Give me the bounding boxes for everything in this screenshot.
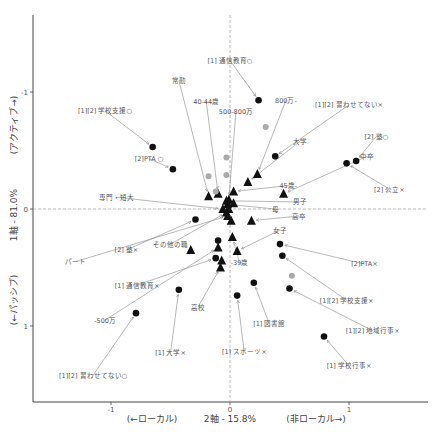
x-tick-label: -1	[108, 406, 115, 414]
y-axis-label-top: (アクティブ→)	[8, 96, 19, 155]
leader-line	[279, 105, 349, 154]
point-label: 高校	[191, 303, 205, 312]
leader-line	[105, 111, 149, 144]
point-label: -500万	[94, 317, 116, 325]
data-point-triangle	[229, 186, 238, 195]
data-point-triangle	[253, 169, 262, 178]
point-label: その他の職	[153, 240, 188, 249]
data-point-circle	[272, 153, 279, 160]
x-tick-label: 1	[347, 406, 351, 414]
leader-line	[198, 272, 218, 307]
data-point-circle	[133, 310, 140, 317]
leader-line	[171, 295, 179, 353]
point-label: 500-800万	[219, 108, 253, 116]
leader-line	[259, 100, 286, 169]
x-axis-label-right: (非ローカル→)	[286, 413, 346, 424]
data-point-circle	[234, 292, 241, 299]
correspondence-analysis-chart: -101-101 [1] 通信教育○[1][2] 学校支援○[2]PTA ○[1…	[0, 0, 437, 437]
leader-line	[233, 205, 276, 209]
y-axis-label-bottom: (←パッシブ)	[8, 275, 19, 326]
supplementary-point	[223, 172, 229, 178]
point-label: [1] 学校行事×	[327, 361, 372, 370]
point-label: [1][2] 習わせてない○	[59, 372, 127, 380]
data-point-circle	[343, 160, 350, 167]
point-label: [2] 公立×	[374, 185, 405, 194]
leader-line	[230, 60, 256, 96]
y-axis-label: 1軸 - 81.0%	[8, 188, 19, 241]
point-label: -39歳	[231, 258, 249, 267]
point-label: 母	[272, 206, 279, 214]
data-point-circle	[279, 253, 286, 260]
data-point-circle	[353, 158, 360, 165]
x-axis-label-left: (←ローカル)	[127, 414, 178, 424]
point-label: [1][2] 学校支援○	[78, 106, 132, 115]
point-label: [2] 塾○	[364, 132, 388, 141]
data-point-circle	[321, 333, 328, 340]
data-point-triangle	[279, 189, 288, 198]
point-label: [2]PTA ○	[135, 155, 164, 163]
point-label: [1][2] 習わせてない×	[315, 101, 383, 109]
data-point-circle	[212, 255, 219, 262]
data-point-circle	[286, 285, 293, 292]
point-label: [1] 通信教育×	[115, 281, 160, 290]
supplementary-point	[213, 188, 219, 194]
leader-line	[286, 259, 346, 301]
point-label: 中卒	[360, 152, 374, 161]
point-label: [1][2] 地域行事×	[346, 326, 400, 335]
point-label: [1] 大学×	[155, 348, 186, 357]
supplementary-point	[289, 273, 295, 279]
leader-line	[256, 287, 270, 323]
point-label: パート	[65, 258, 86, 266]
point-label: [1] 通信教育○	[208, 56, 253, 65]
data-point-circle	[277, 241, 284, 248]
leader-line	[229, 112, 236, 195]
data-point-circle	[251, 279, 258, 286]
point-label: 800万-	[275, 97, 297, 105]
data-point-triangle	[204, 191, 213, 200]
data-point-triangle	[233, 246, 242, 255]
data-point-triangle	[247, 216, 256, 225]
supplementary-point	[223, 155, 229, 161]
point-label: [1] スポーツ×	[222, 348, 267, 356]
y-tick-label: -1	[21, 89, 28, 97]
point-label: [1][2] 学校支援×	[320, 296, 374, 305]
leader-line	[75, 217, 223, 261]
point-label: 大学	[293, 137, 307, 146]
point-label: 常勤	[172, 76, 186, 85]
point-label: 専門・短大	[99, 193, 134, 202]
leader-line	[238, 301, 245, 352]
data-point-circle	[192, 216, 199, 223]
data-point-triangle	[243, 177, 252, 186]
data-point-triangle	[228, 232, 237, 241]
x-tick-label: 0	[228, 406, 232, 414]
supplementary-point	[263, 124, 269, 130]
leader-line	[93, 317, 133, 375]
data-point-circle	[255, 97, 262, 104]
point-label: 45歳-	[279, 181, 297, 190]
data-point-triangle	[214, 243, 223, 252]
point-label: [2]PTA×	[351, 260, 378, 268]
point-label: 40-44歳	[193, 97, 219, 106]
supplementary-point	[206, 173, 212, 179]
point-label: [1] 図書館	[253, 319, 285, 328]
y-tick-label: 0	[24, 206, 28, 214]
point-label: 女子	[273, 226, 287, 235]
point-label: 男子	[293, 198, 307, 206]
data-point-circle	[176, 286, 183, 293]
data-point-circle	[170, 166, 177, 173]
point-label: 高卒	[292, 212, 306, 221]
x-axis-label: 2軸 - 15.8%	[204, 413, 257, 424]
point-label: [2] 塾×	[115, 245, 139, 254]
leader-line	[231, 201, 300, 202]
y-tick-label: 1	[24, 323, 28, 331]
data-point-circle	[149, 144, 156, 151]
